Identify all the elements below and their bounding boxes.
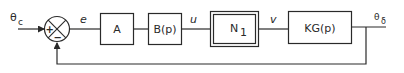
output-theta: θ [374,12,380,22]
output-label: θ δ [374,12,386,26]
block-b-label: B(p) [153,23,176,36]
block-n1: N 1 [211,12,259,47]
block-kg: KG(p) [289,12,352,44]
input-label: θ c [10,11,23,27]
block-a: A [101,14,134,45]
summing-junction: + − [45,17,70,44]
input-subscript: c [18,17,23,27]
input-theta: θ [10,11,17,24]
nonlinear-output-label: v [270,13,277,26]
block-diagram: θ c + − e A B(p) u N 1 v KG(p) [0,0,404,73]
error-signal-label: e [80,13,87,26]
minus-sign: − [54,32,62,43]
control-signal-label: u [190,13,197,26]
output-subscript: δ [381,17,386,26]
block-a-label: A [113,23,121,36]
block-n1-subscript: 1 [240,26,247,39]
block-kg-label: KG(p) [304,22,335,35]
block-n1-label: N [230,22,238,35]
block-b: B(p) [149,14,182,45]
